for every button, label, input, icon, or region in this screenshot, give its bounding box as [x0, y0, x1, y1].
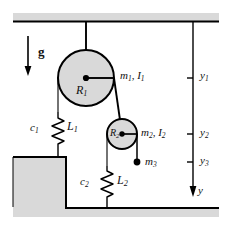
spring2-coil — [101, 166, 113, 208]
y2-subscript: 2 — [205, 131, 209, 140]
mass1-symbol: m — [120, 69, 128, 81]
ground-platform — [13, 157, 219, 217]
gravity-arrow — [25, 36, 32, 76]
pulley1-radius-subscript: 1 — [83, 89, 87, 98]
pulley2-radius-label: R2 — [110, 128, 120, 140]
mass2-symbol: m — [141, 126, 149, 138]
spring2-symbol: L — [117, 173, 124, 187]
y-axis-arrowhead — [190, 186, 197, 197]
damper2-subscript: 2 — [85, 180, 89, 189]
y1-subscript: 1 — [205, 74, 209, 83]
mass1-comma: , — [132, 69, 135, 81]
y3-subscript: 3 — [205, 159, 209, 168]
pulley1-center-dot — [83, 75, 89, 81]
gravity-label: g — [38, 45, 45, 58]
spring1-symbol: L — [67, 119, 74, 133]
mass2-comma: , — [153, 126, 156, 138]
spring1-subscript: 1 — [74, 125, 78, 134]
mass1-inertia1-label: m1, I1 — [120, 70, 145, 83]
damper1-label: c1 — [30, 122, 39, 135]
ceiling-hatch-band — [13, 13, 219, 21]
inertia2-subscript: 2 — [162, 131, 166, 140]
damper1-subscript: 1 — [35, 126, 39, 135]
pulley2-radius-subscript: 2 — [116, 132, 119, 139]
spring2-label: L2 — [117, 174, 128, 188]
pulley2-center-dot — [119, 131, 124, 136]
spring1-label: L1 — [67, 120, 78, 134]
y1-axis-label: y1 — [200, 70, 209, 83]
platform-block-fill — [13, 157, 66, 208]
inertia1-subscript: 1 — [141, 74, 145, 83]
physics-diagram-figure: g R1 R2 m1, I1 m2, I2 m3 c1 L1 c2 L2 y1 … — [0, 0, 232, 229]
mass3-label: m3 — [145, 156, 157, 169]
y2-axis-label: y2 — [200, 127, 209, 140]
mass3-subscript: 3 — [153, 160, 157, 169]
gravity-arrow-head — [25, 66, 32, 76]
y3-axis-label: y3 — [200, 155, 209, 168]
ceiling-support — [13, 13, 219, 22]
y-axis-name-label: y — [198, 185, 203, 196]
mass3-symbol: m — [145, 155, 153, 167]
damper2-label: c2 — [80, 176, 89, 189]
pulley1-radius-label: R1 — [76, 84, 87, 98]
y-coordinate-axis — [187, 21, 196, 197]
spring2-subscript: 2 — [124, 179, 128, 188]
spring1-coil — [52, 112, 64, 157]
mass2-inertia2-label: m2, I2 — [141, 127, 166, 140]
ground-band-fill — [13, 208, 219, 217]
mass3-point-mass — [134, 159, 141, 166]
